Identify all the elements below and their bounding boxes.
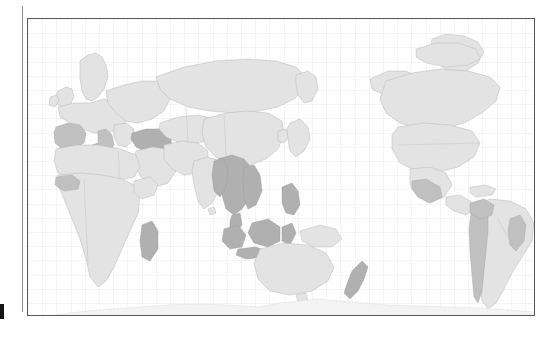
region-antarctica [55,299,534,316]
crop-marker [0,304,4,319]
region-new-guinea [300,225,342,247]
page-margin-rule [22,6,23,312]
region-ireland [49,95,59,107]
region-canada [380,69,500,129]
region-philippines-highlight [282,183,300,215]
world-map-figure [27,18,535,316]
region-russia-siberia [156,59,306,113]
region-china-mongolia [202,111,284,165]
region-sulawesi-highlight [282,223,296,245]
cropped-text-fragment-3: ... [432,0,439,2]
region-caribbean [470,185,496,197]
cropped-text-fragment-2: ... [392,0,399,2]
region-vietnam-highlight [243,165,262,209]
region-sri-lanka [208,207,216,215]
region-japan [287,119,310,157]
region-balkans [114,123,134,147]
region-new-zealand-highlight [344,261,368,299]
region-kamchatka [296,71,318,103]
region-australia [254,243,334,295]
cropped-text-fragment-1: ... [300,0,307,2]
world-map-svg [28,19,535,316]
region-united-states [392,123,480,173]
region-scandinavia [80,53,108,101]
region-borneo-highlight [248,219,280,247]
region-sumatra-highlight [222,225,246,249]
region-madagascar-highlight [140,221,158,261]
